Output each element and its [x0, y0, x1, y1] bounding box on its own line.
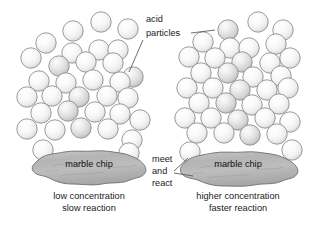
- acid-particle: [187, 123, 207, 143]
- acid-particle: [63, 21, 83, 41]
- acid-particle: [91, 12, 111, 32]
- particle-diagram-svg: marble chip low concentration slow react…: [0, 0, 316, 226]
- acid-particle: [17, 119, 37, 139]
- acid-particle: [36, 33, 56, 53]
- acid-particles-label-line1: acid: [146, 14, 163, 24]
- acid-particle: [218, 63, 238, 83]
- meet-label-line2: and: [152, 166, 167, 176]
- acid-particle: [31, 103, 51, 123]
- caption-right-line1: higher concentration: [196, 191, 279, 201]
- marble-chip-label-left: marble chip: [65, 159, 113, 169]
- acid-particle: [85, 102, 105, 122]
- acid-particle: [17, 87, 37, 107]
- acid-particle: [103, 53, 123, 73]
- meet-label-line3: react: [152, 178, 173, 188]
- acid-particle: [83, 70, 103, 90]
- acid-particle: [267, 124, 287, 144]
- acid-particle: [240, 125, 260, 145]
- acid-particle: [248, 12, 268, 32]
- caption-left-line2: slow reaction: [62, 203, 116, 213]
- acid-particle: [280, 48, 300, 68]
- caption-left-line1: low concentration: [53, 191, 125, 201]
- marble-chip-label-right: marble chip: [214, 159, 262, 169]
- acid-particle: [21, 48, 41, 68]
- acid-particle: [71, 118, 91, 138]
- diagram-root: marble chip low concentration slow react…: [0, 0, 316, 226]
- acid-particle: [76, 52, 96, 72]
- acid-particle: [58, 101, 78, 121]
- acid-particle: [218, 20, 238, 40]
- caption-right-line2: faster reaction: [209, 203, 267, 213]
- acid-particle: [98, 119, 118, 139]
- acid-particle: [118, 19, 138, 39]
- acid-particles-label-line2: particles: [146, 28, 181, 38]
- acid-particle: [216, 93, 236, 113]
- acid-particle: [45, 120, 65, 140]
- acid-particle: [214, 123, 234, 143]
- acid-particle: [282, 140, 302, 160]
- meet-label-line1: meet: [152, 154, 173, 164]
- acid-particle: [130, 110, 150, 130]
